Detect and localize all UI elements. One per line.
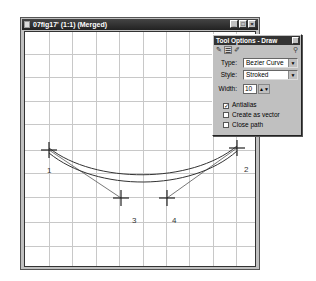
tool-options-title: Tool Options - Draw xyxy=(216,37,277,44)
options-tab-icon[interactable]: ☰ xyxy=(224,46,232,54)
antialias-checkbox[interactable]: ✓Antialias xyxy=(223,100,257,109)
width-spinner[interactable]: ▲▼ xyxy=(258,84,270,94)
type-label: Type: xyxy=(221,58,237,68)
width-row: Width: 10 ▲▼ xyxy=(215,84,298,94)
pen-tab-icon[interactable]: ✐ xyxy=(233,46,241,54)
chevron-down-icon[interactable]: ▼ xyxy=(288,71,297,79)
width-label: Width: xyxy=(219,84,237,94)
create-as-vector-checkbox[interactable]: Create as vector xyxy=(223,110,280,119)
pin-icon[interactable]: ⚲ xyxy=(293,46,298,54)
style-row: Style: Stroked ▼ xyxy=(215,70,298,80)
brush-tab-icon[interactable]: ✎ xyxy=(215,46,223,54)
width-input[interactable]: 10 xyxy=(243,84,257,94)
point-label-1: 1 xyxy=(47,166,51,175)
create-as-vector-label: Create as vector xyxy=(232,111,280,118)
checkbox-checked-icon: ✓ xyxy=(223,103,229,109)
type-row: Type: Bezier Curve ▼ xyxy=(215,58,298,68)
maximize-button[interactable]: □ xyxy=(239,20,247,28)
document-icon xyxy=(24,21,30,28)
style-select[interactable]: Stroked ▼ xyxy=(243,70,298,80)
close-path-checkbox[interactable]: Close path xyxy=(223,120,263,129)
point-label-2: 2 xyxy=(244,165,248,174)
style-label: Style: xyxy=(221,70,237,80)
checkbox-icon xyxy=(223,122,229,128)
window-title: 07fig17' (1:1) (Merged) xyxy=(33,19,107,30)
tool-options-titlebar[interactable]: Tool Options - Draw xyxy=(214,36,300,45)
point-label-3: 3 xyxy=(132,216,136,225)
checkbox-icon xyxy=(223,112,229,118)
palette-close-button[interactable] xyxy=(292,37,299,44)
type-select[interactable]: Bezier Curve ▼ xyxy=(243,58,298,68)
chevron-down-icon[interactable]: ▼ xyxy=(288,59,297,67)
point-label-4: 4 xyxy=(172,216,176,225)
close-path-label: Close path xyxy=(232,121,263,128)
antialias-label: Antialias xyxy=(232,101,257,108)
window-titlebar[interactable]: 07fig17' (1:1) (Merged) _ □ × xyxy=(22,19,258,30)
close-button[interactable]: × xyxy=(248,20,256,28)
tool-options-palette: Tool Options - Draw ✎ ☰ ✐ ⚲ Type: Bezier… xyxy=(212,34,302,136)
type-value: Bezier Curve xyxy=(246,59,284,66)
minimize-button[interactable]: _ xyxy=(230,20,238,28)
style-value: Stroked xyxy=(246,71,268,78)
